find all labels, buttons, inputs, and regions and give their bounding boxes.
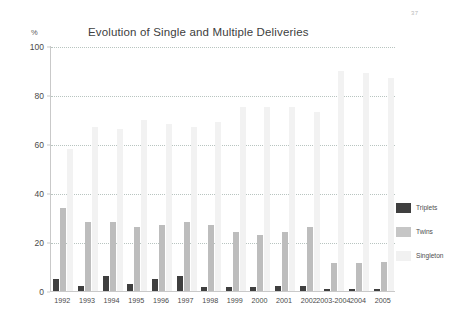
x-tick-label: 1997 [178, 296, 194, 305]
bar-twins [159, 225, 165, 291]
y-axis-unit-label: % [31, 28, 38, 37]
bar-triplets [103, 276, 109, 291]
y-tick-mark [47, 243, 50, 244]
plot-area: 020406080100 [50, 46, 395, 292]
x-tick-label: 1996 [153, 296, 169, 305]
bar-group [100, 46, 125, 291]
bar-twins [233, 232, 239, 291]
chart-title: Evolution of Single and Multiple Deliver… [88, 26, 348, 38]
bar-twins [307, 227, 313, 291]
bar-group [347, 46, 372, 291]
bar-singleton [363, 73, 369, 291]
bar-group [125, 46, 150, 291]
bar-triplets [349, 289, 355, 291]
bar-triplets [275, 286, 281, 291]
bar-group [297, 46, 322, 291]
bar-group [199, 46, 224, 291]
bar-twins [257, 235, 263, 291]
bar-singleton [240, 107, 246, 291]
bar-group [273, 46, 298, 291]
chart-page: 37 Evolution of Single and Multiple Deli… [0, 0, 455, 333]
y-tick-label: 0 [39, 287, 44, 297]
legend-item-triplets: Triplets [396, 202, 444, 213]
bar-twins [331, 263, 337, 291]
bar-group [248, 46, 273, 291]
x-tick-label: 1993 [79, 296, 95, 305]
bar-singleton [141, 120, 147, 292]
x-tick-label: 1998 [202, 296, 218, 305]
bar-singleton [314, 112, 320, 291]
bar-twins [134, 227, 140, 291]
bar-twins [110, 222, 116, 291]
bar-group [322, 46, 347, 291]
x-tick-label: 2000 [251, 296, 267, 305]
legend-swatch-twins-icon [396, 227, 411, 237]
y-tick-mark [47, 96, 50, 97]
bar-group [51, 46, 76, 291]
bar-triplets [300, 286, 306, 291]
y-tick-mark [47, 194, 50, 195]
bar-triplets [250, 287, 256, 291]
bar-twins [282, 232, 288, 291]
y-tick-mark [47, 145, 50, 146]
bar-triplets [78, 286, 84, 291]
bar-singleton [166, 124, 172, 291]
x-axis-labels: 1992199319941995199619971998199920002001… [50, 296, 395, 312]
legend-swatch-singleton-icon [396, 251, 411, 261]
legend-label-singleton: Singleton [416, 252, 444, 259]
x-tick-label: 2002 [301, 296, 317, 305]
bar-singleton [92, 127, 98, 291]
legend-swatch-triplets-icon [396, 203, 411, 213]
bar-twins [381, 262, 387, 291]
legend-item-twins: Twins [396, 226, 444, 237]
y-tick-mark [47, 292, 50, 293]
legend-label-triplets: Triplets [416, 204, 437, 211]
y-tick-mark [47, 47, 50, 48]
y-tick-label: 80 [35, 91, 44, 101]
bar-twins [85, 222, 91, 291]
y-tick-label: 60 [35, 140, 44, 150]
bar-twins [356, 263, 362, 291]
y-tick-label: 100 [30, 42, 44, 52]
bar-group [371, 46, 396, 291]
bar-triplets [53, 279, 59, 291]
bar-triplets [127, 284, 133, 291]
bar-singleton [388, 78, 394, 291]
x-tick-label: 1999 [227, 296, 243, 305]
x-tick-label: 1992 [54, 296, 70, 305]
bar-singleton [67, 149, 73, 291]
x-tick-label: 2001 [276, 296, 292, 305]
x-tick-label: 2005 [375, 296, 391, 305]
bar-triplets [177, 276, 183, 291]
bar-singleton [289, 107, 295, 291]
y-tick-label: 20 [35, 238, 44, 248]
bar-group [76, 46, 101, 291]
page-number: 37 [411, 10, 419, 16]
bar-group [224, 46, 249, 291]
bar-group [150, 46, 175, 291]
x-tick-label: 1994 [104, 296, 120, 305]
bar-singleton [264, 107, 270, 291]
bar-singleton [191, 127, 197, 291]
bar-triplets [324, 289, 330, 291]
bar-group [174, 46, 199, 291]
y-tick-label: 40 [35, 189, 44, 199]
bar-singleton [215, 122, 221, 291]
bar-twins [208, 225, 214, 291]
bar-triplets [201, 287, 207, 291]
bars-layer [51, 46, 395, 291]
legend-item-singleton: Singleton [396, 250, 444, 261]
bar-twins [60, 208, 66, 291]
bar-singleton [117, 129, 123, 291]
x-axis-line [50, 291, 395, 292]
bar-singleton [338, 71, 344, 292]
bar-triplets [152, 279, 158, 291]
x-tick-label: 2003-2004 [316, 296, 350, 305]
x-tick-label: 1995 [128, 296, 144, 305]
chart-legend: Triplets Twins Singleton [396, 202, 444, 261]
bar-triplets [374, 289, 380, 291]
x-tick-label: 2004 [350, 296, 366, 305]
bar-triplets [226, 287, 232, 291]
legend-label-twins: Twins [416, 228, 433, 235]
bar-twins [184, 222, 190, 291]
